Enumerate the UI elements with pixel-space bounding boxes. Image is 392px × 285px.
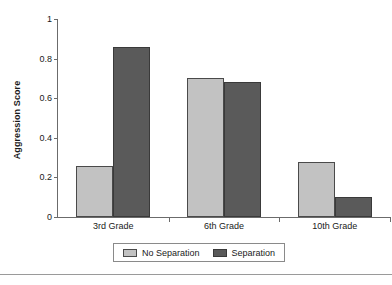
y-tick-label: 0.8 (26, 54, 52, 63)
y-tick-label: 1 (26, 15, 52, 24)
y-axis-title-label: Aggression Score (12, 81, 22, 160)
y-axis-title: Aggression Score (8, 56, 26, 184)
bar-chart-figure: Aggression Score 00.20.40.60.81 3rd Grad… (0, 0, 392, 285)
y-tick-mark (54, 19, 58, 20)
legend-swatch-icon (213, 249, 227, 257)
bottom-divider (0, 274, 392, 275)
x-axis-category-labels: 3rd Grade6th Grade10th Grade (58, 221, 390, 237)
y-tick-mark (54, 217, 58, 218)
y-tick-mark (54, 177, 58, 178)
y-tick-mark (54, 98, 58, 99)
y-tick-mark (54, 138, 58, 139)
bar-separation[interactable] (224, 82, 261, 217)
bar-group (76, 19, 150, 217)
x-category-label: 3rd Grade (58, 221, 169, 231)
bar-group (298, 19, 372, 217)
legend-swatch-icon (123, 249, 137, 257)
y-tick-mark (54, 59, 58, 60)
chart-legend: No SeparationSeparation (113, 243, 285, 262)
y-axis-line (57, 19, 58, 218)
bar-group (187, 19, 261, 217)
bar-no-separation[interactable] (76, 166, 113, 217)
bar-no-separation[interactable] (298, 162, 335, 217)
y-axis-tick-labels: 00.20.40.60.81 (26, 0, 52, 285)
y-tick-label: 0.4 (26, 133, 52, 142)
bar-separation[interactable] (113, 47, 150, 217)
bar-separation[interactable] (335, 197, 372, 217)
bar-no-separation[interactable] (187, 78, 224, 217)
x-category-label: 6th Grade (169, 221, 280, 231)
x-axis-line (57, 217, 390, 218)
y-tick-label: 0.6 (26, 94, 52, 103)
y-tick-label: 0.2 (26, 173, 52, 182)
x-category-label: 10th Grade (279, 221, 390, 231)
y-tick-label: 0 (26, 213, 52, 222)
legend-entry[interactable]: No Separation (123, 248, 200, 258)
plot-area (58, 19, 390, 217)
legend-label: Separation (232, 248, 276, 258)
legend-entry[interactable]: Separation (213, 248, 276, 258)
legend-label: No Separation (142, 248, 200, 258)
x-tick-mark (390, 217, 391, 222)
